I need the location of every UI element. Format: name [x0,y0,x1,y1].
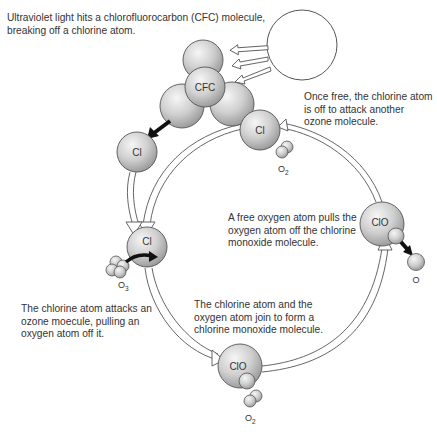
caption-pull: A free oxygen atom pulls the oxygen atom… [228,212,364,250]
o2-bottom-label: O2 [245,413,256,425]
caption-free: Once free, the chlorine atom is off to a… [304,91,434,129]
sun-circle [267,10,337,80]
o3-label: O3 [118,280,129,292]
o2-top-label: O2 [278,164,289,176]
break-arrow [154,121,170,133]
clo-bottom-label: ClO [229,361,246,372]
caption-attack: The chlorine atom attacks an ozone moecu… [21,303,161,341]
o-free-label: O [412,275,419,285]
cl-atom-attack [127,227,167,267]
ozone-depletion-diagram: CFC Cl Cl O2 Cl O3 ClO O ClO O2 [0,0,437,435]
free-oxygen-atom [408,254,425,271]
caption-join: The chlorine atom and the oxygen atom jo… [194,299,339,337]
o2-top-molecule [276,141,293,158]
cfc-label: CFC [195,82,216,93]
clo-right-label: ClO [371,217,388,228]
clo-bottom-oxygen [239,373,255,389]
uv-arrows [230,43,271,84]
cl-attack-label: Cl [142,236,151,247]
o3-molecule [106,256,129,278]
cl-left-label: Cl [132,147,141,158]
cl-top-label: Cl [255,125,264,136]
caption-uv: Ultraviolet light hits a chlorofluorocar… [7,12,277,37]
o2-bottom-molecule [244,390,262,407]
